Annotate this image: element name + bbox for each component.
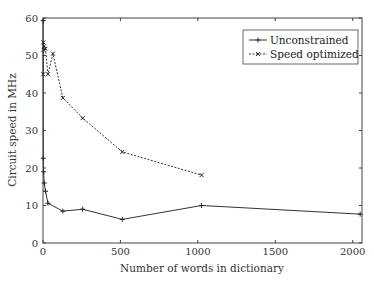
data-point-unconstrained (80, 207, 85, 212)
data-point-unconstrained (43, 189, 48, 194)
legend-label-unconstrained: Unconstrained (270, 34, 349, 46)
data-point-unconstrained (120, 217, 125, 222)
y-tick-label: 40 (25, 88, 38, 99)
chart: 0500100015002000 0102030405060 Number of… (0, 0, 374, 281)
y-tick-label: 0 (32, 238, 38, 249)
y-tick-label: 60 (25, 13, 38, 24)
data-point-unconstrained (42, 181, 47, 186)
data-point-speed-optimized (120, 150, 124, 154)
y-tick-label: 50 (25, 50, 38, 61)
y-tick-label: 10 (25, 200, 38, 211)
data-point-unconstrained (41, 156, 46, 161)
x-axis-label: Number of words in dictionary (120, 262, 284, 274)
data-point-speed-optimized (200, 173, 204, 177)
data-point-unconstrained (41, 169, 46, 174)
x-tick-label: 2000 (340, 246, 365, 257)
y-tick-label: 30 (25, 125, 38, 136)
data-point-unconstrained (41, 18, 46, 23)
data-point-unconstrained (45, 201, 50, 206)
x-tick-label: 1500 (263, 246, 288, 257)
data-point-speed-optimized (81, 116, 85, 120)
legend-label-speed-optimized: Speed optimized (270, 48, 359, 60)
data-point-unconstrained (60, 209, 65, 214)
x-tick-label: 500 (111, 246, 130, 257)
data-point-unconstrained (199, 203, 204, 208)
x-tick-label: 0 (40, 246, 46, 257)
y-tick-label: 20 (25, 163, 38, 174)
x-tick-label: 1000 (185, 246, 210, 257)
legend: Unconstrained Speed optimized (243, 30, 359, 64)
series-line-speed-optimized (43, 42, 201, 175)
y-axis-label: Circuit speed in MHz (6, 73, 18, 187)
